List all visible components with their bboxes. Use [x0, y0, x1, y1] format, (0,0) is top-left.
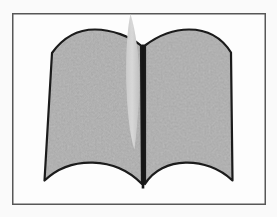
open-book-figure — [0, 0, 277, 217]
illustration-canvas — [0, 0, 277, 217]
